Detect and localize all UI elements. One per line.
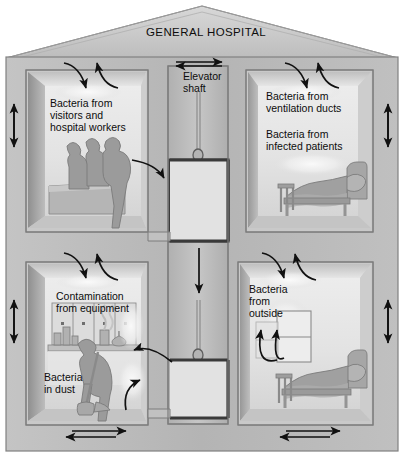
roof: [6, 6, 398, 58]
room-upper-right: [246, 70, 373, 232]
building-illustration: [0, 0, 404, 458]
room-lower-left: [26, 262, 148, 425]
room-upper-left: [26, 70, 148, 232]
hospital-diagram: GENERAL HOSPITAL Elevator shaft Bacteria…: [0, 0, 404, 458]
room-lower-right: [238, 262, 373, 425]
